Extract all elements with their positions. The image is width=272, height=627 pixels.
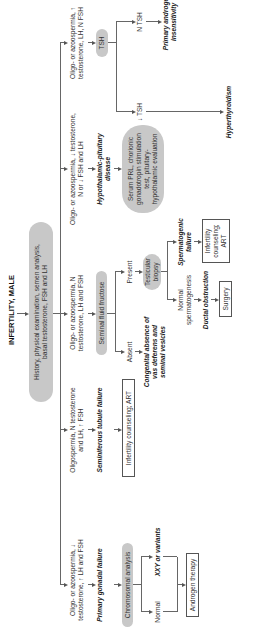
branch-2-diagnosis: Seminiferous tubule failure [96, 385, 104, 475]
testicular-biopsy: Testicular biopsy [143, 254, 161, 290]
primary-androgen-insensitivity: Primary androgen insensitivity [162, 0, 178, 52]
branch-3-finding: Oligo- or azoospermia, N testosterone, L… [69, 261, 85, 365]
start-node: History, physical examination, semen ana… [29, 222, 53, 402]
branch-4-diagnosis: Hypothalamic-pituitary disease [96, 121, 112, 217]
title: INFERTILITY, MALE [8, 255, 16, 365]
start-label: History, physical examination, semen ana… [33, 236, 49, 388]
branch-1-diagnosis: Primary gonadal failure [96, 545, 104, 625]
outcome-normal: Normal [154, 592, 162, 627]
branch-3-test: Seminal fluid fructose [96, 271, 107, 355]
hyperthyroidism: Hyperthyroidism [225, 72, 233, 152]
spermatogenic-failure: Spermatogenic failure [177, 212, 193, 272]
spermatogenic-treatment: Infertility counseling; ART [202, 219, 230, 263]
flowchart: INFERTILITY, MALE History, physical exam… [0, 0, 272, 627]
branch-2-treatment: Infertility counseling; ART [122, 379, 135, 477]
branch-4-finding: Oligo- or azoospermia, ↓ testosterone, N… [69, 113, 85, 225]
branch-5-finding: Oligo- or azoospermia, ↑ testosterone, L… [69, 0, 85, 93]
branch-4-test: Serum PRL, chorionic gonadotropin stimul… [122, 125, 164, 213]
branch-2-finding: Oligospermia, N testosterone and LH, ↑ F… [69, 385, 85, 475]
outcome-xxy: XXY or variants [154, 522, 162, 582]
branch-1-finding: Oligo- or azoospermia, ↓ testosterone, ↑… [69, 525, 85, 627]
branch-line [60, 43, 61, 585]
normal-spermatogenesis: Normal spermatogenesis [177, 270, 193, 330]
ductal-obstruction: Ductal obstruction [202, 263, 210, 337]
branch-3-absent-diagnosis: Congenital absence of vas deferens and s… [143, 312, 167, 392]
outcome-normal-tsh: N TSH [136, 2, 144, 42]
surgery-box: Surgery [219, 281, 232, 317]
outcome-present: Present [126, 252, 134, 292]
tsh-node: TSH [96, 29, 108, 57]
outcome-absent: Absent [126, 332, 134, 372]
outcome-low-tsh: ↓ TSH [136, 92, 144, 132]
branch-1-test: Chromosomal analysis [122, 543, 133, 627]
branch-1-treatment: Androgen therapy [186, 553, 199, 617]
